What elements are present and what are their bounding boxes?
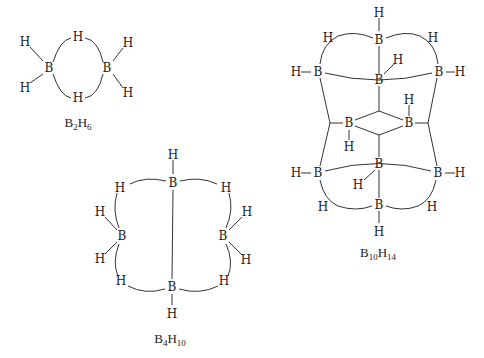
atom-labels: H B H H H B B H B H B H B H H B B H B H … bbox=[291, 6, 465, 239]
atom-h: H bbox=[428, 31, 438, 45]
atom-h: H bbox=[393, 53, 403, 67]
atom-h: H bbox=[455, 65, 465, 79]
atom-b: B bbox=[169, 176, 178, 190]
atom-b: B bbox=[375, 198, 384, 212]
atom-b: B bbox=[434, 166, 443, 180]
atom-b: B bbox=[314, 65, 323, 79]
atom-h: H bbox=[95, 252, 105, 266]
atom-b: B bbox=[375, 157, 384, 171]
atom-h: H bbox=[427, 200, 437, 214]
atom-h: H bbox=[73, 91, 83, 105]
atom-b: B bbox=[405, 116, 414, 130]
atom-h: H bbox=[168, 148, 178, 162]
atom-h: H bbox=[123, 86, 133, 100]
atom-h: H bbox=[344, 140, 354, 154]
formula-label: B10H14 bbox=[360, 245, 397, 262]
formula-label: B4H10 bbox=[154, 331, 186, 348]
atom-b: B bbox=[45, 61, 54, 75]
boron-hydrides-diagram: B B H H H H H H B2H6 H bbox=[0, 0, 484, 358]
atom-h: H bbox=[115, 181, 125, 195]
molecule-b4h10: H B H H H B H H B H H H B H B4H10 bbox=[95, 148, 252, 348]
atom-b: B bbox=[375, 73, 384, 87]
atom-b: B bbox=[345, 116, 354, 130]
atom-h: H bbox=[323, 31, 333, 45]
atom-b: B bbox=[314, 166, 323, 180]
atom-b: B bbox=[219, 229, 228, 243]
atom-h: H bbox=[219, 274, 229, 288]
atom-h: H bbox=[455, 166, 465, 180]
atom-b: B bbox=[118, 229, 127, 243]
formula-label: B2H6 bbox=[64, 115, 92, 132]
atom-h: H bbox=[242, 205, 252, 219]
atom-h: H bbox=[318, 200, 328, 214]
atom-h: H bbox=[20, 35, 30, 49]
atom-h: H bbox=[73, 30, 83, 44]
atom-h: H bbox=[221, 181, 231, 195]
molecule-b10h14: H B H H H B B H B H B H B H H B B H B H … bbox=[291, 6, 465, 262]
atom-h: H bbox=[374, 225, 384, 239]
atom-h: H bbox=[404, 93, 414, 107]
atom-b: B bbox=[168, 280, 177, 294]
atom-h: H bbox=[123, 36, 133, 50]
atom-b: B bbox=[103, 61, 112, 75]
atom-h: H bbox=[116, 274, 126, 288]
atom-b: B bbox=[435, 65, 444, 79]
atom-h: H bbox=[374, 6, 384, 20]
atom-h: H bbox=[20, 81, 30, 95]
atom-labels: B B H H H H H H bbox=[20, 30, 133, 105]
atom-h: H bbox=[353, 178, 363, 192]
atom-h: H bbox=[291, 65, 301, 79]
atom-h: H bbox=[241, 253, 251, 267]
molecule-b2h6: B B H H H H H H B2H6 bbox=[20, 30, 133, 132]
atom-h: H bbox=[291, 166, 301, 180]
atom-h: H bbox=[95, 205, 105, 219]
atom-h: H bbox=[167, 307, 177, 321]
atom-b: B bbox=[375, 33, 384, 47]
